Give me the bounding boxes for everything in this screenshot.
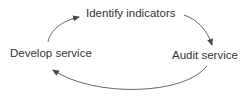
arrow-audit-to-develop <box>53 66 207 89</box>
cycle-diagram: Identify indicators Audit service Develo… <box>0 0 252 103</box>
node-audit-service: Audit service <box>172 50 238 62</box>
node-identify-indicators: Identify indicators <box>86 8 176 20</box>
arrow-develop-to-identify <box>48 17 79 42</box>
arrow-identify-to-audit <box>184 15 212 45</box>
node-develop-service: Develop service <box>10 48 92 60</box>
